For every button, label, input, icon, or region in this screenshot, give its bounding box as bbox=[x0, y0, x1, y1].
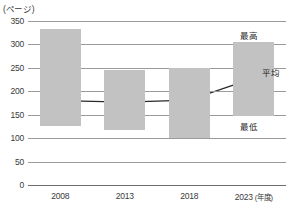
x-tick-2013: 2013 bbox=[116, 191, 134, 201]
gridline-350 bbox=[28, 21, 286, 22]
gridline-100 bbox=[28, 138, 286, 139]
x-tick-2018: 2018 bbox=[180, 191, 198, 201]
plot-area: 0501001502002503003502008201320182023 (年… bbox=[28, 21, 286, 185]
annotation-min: 最低 bbox=[240, 120, 258, 132]
x-tick-label-2023: 2023 bbox=[235, 192, 253, 202]
y-tick-label-200: 200 bbox=[10, 86, 24, 96]
x-tick-2023: 2023 (年度) bbox=[235, 191, 273, 202]
range-bar-2008 bbox=[40, 29, 81, 126]
annotation-max: 最高 bbox=[240, 29, 258, 41]
average-polyline bbox=[60, 78, 254, 102]
x-tick-2008: 2008 bbox=[51, 191, 69, 201]
y-tick-label-0: 0 bbox=[19, 180, 24, 190]
gridline-50 bbox=[28, 162, 286, 163]
range-bar-2018 bbox=[169, 68, 210, 138]
y-tick-label-300: 300 bbox=[10, 39, 24, 49]
annotation-avg: 平均 bbox=[262, 66, 280, 78]
y-tick-label-150: 150 bbox=[10, 110, 24, 120]
y-tick-label-250: 250 bbox=[10, 63, 24, 73]
y-tick-label-350: 350 bbox=[10, 16, 24, 26]
range-bar-2023 bbox=[233, 42, 274, 116]
y-axis-unit-label: (ページ) bbox=[3, 2, 34, 14]
range-bar-2013 bbox=[104, 70, 145, 130]
y-tick-label-100: 100 bbox=[10, 133, 24, 143]
gridline-0 bbox=[28, 185, 286, 186]
x-axis-unit-label: (年度) bbox=[253, 193, 273, 202]
chart-container: (ページ) 0501001502002503003502008201320182… bbox=[0, 0, 292, 209]
y-tick-label-50: 50 bbox=[15, 157, 24, 167]
